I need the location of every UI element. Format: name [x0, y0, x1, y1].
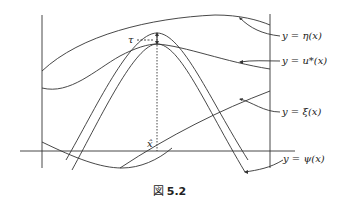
- diagram-svg: y = η(x) y = u*(x) y = ξ(x) y = ψ(x) τ x…: [0, 0, 339, 203]
- tau-label: τ: [128, 34, 134, 45]
- caption-prefix: 図: [153, 185, 164, 198]
- x-hat-label: x̂: [147, 138, 153, 149]
- xi-curve: [120, 91, 270, 168]
- u-star-label: y = u*(x): [281, 55, 327, 66]
- eta-label: y = η(x): [281, 30, 322, 41]
- u-star-leader: [240, 61, 280, 62]
- eta-leader: [240, 18, 280, 36]
- caption-number: 5.2: [167, 185, 187, 198]
- u-star-curve: [42, 44, 270, 89]
- psi-label: y = ψ(x): [282, 153, 325, 164]
- xi-leader: [240, 99, 280, 112]
- figure-caption: 図5.2: [0, 182, 339, 198]
- diagram-figure: y = η(x) y = u*(x) y = ξ(x) y = ψ(x) τ x…: [0, 0, 339, 203]
- psi-leader: [245, 160, 283, 172]
- bell-curve-lower: [72, 44, 245, 172]
- xi-label: y = ξ(x): [281, 106, 321, 117]
